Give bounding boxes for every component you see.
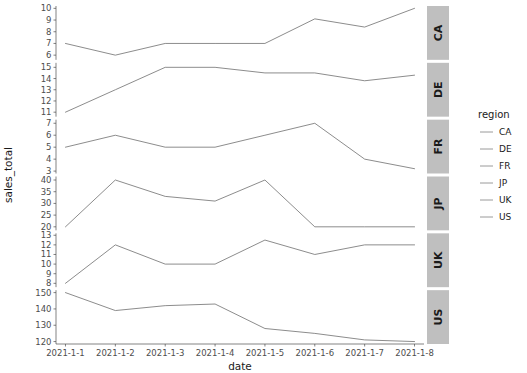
facet-strip-label-de: DE (432, 81, 445, 98)
y-tick-label: 7 (46, 38, 51, 48)
legend-item-uk[interactable]: UK (480, 195, 513, 205)
legend-label-ca: CA (499, 127, 512, 137)
y-tick-label: 13 (41, 230, 52, 240)
y-tick-label: 6 (46, 130, 51, 140)
y-tick-label: 8 (46, 27, 51, 37)
y-tick-label: 9 (46, 269, 51, 279)
y-tick-label: 40 (41, 175, 52, 185)
legend-label-fr: FR (499, 161, 510, 171)
facet-strip-label-fr: FR (432, 138, 445, 155)
x-tick-label: 2021-1-2 (96, 348, 135, 358)
y-tick-label: 5 (46, 142, 51, 152)
legend-item-us[interactable]: US (480, 212, 512, 222)
facet-panel-ca: 678910 (41, 3, 449, 60)
x-tick-label: 2021-1-3 (146, 348, 185, 358)
panel-background-ca (56, 6, 424, 60)
y-axis-title: sales_total (2, 147, 15, 203)
chart-canvas: 678910CA1112131415DE34567FR2025303540JP8… (0, 0, 527, 373)
x-tick-label: 2021-1-7 (345, 348, 384, 358)
y-tick-label: 12 (41, 96, 52, 106)
legend-item-ca[interactable]: CA (480, 127, 512, 137)
x-tick-label: 2021-1-1 (46, 348, 85, 358)
x-tick-label: 2021-1-6 (295, 348, 334, 358)
y-tick-label: 120 (35, 337, 51, 347)
x-tick-label: 2021-1-5 (246, 348, 285, 358)
legend-title: region (478, 109, 510, 120)
y-tick-label: 140 (35, 304, 51, 314)
y-tick-label: 130 (35, 320, 51, 330)
facet-strip-label-uk: UK (432, 251, 445, 269)
legend-label-de: DE (499, 144, 512, 154)
y-tick-label: 15 (41, 62, 52, 72)
facet-panel-jp: 2025303540 (41, 175, 449, 232)
facet-strip-label-jp: JP (432, 197, 445, 210)
y-tick-label: 7 (46, 118, 51, 128)
legend-label-uk: UK (499, 195, 513, 205)
facet-line-chart: 678910CA1112131415DE34567FR2025303540JP8… (0, 0, 527, 373)
y-tick-label: 150 (35, 288, 51, 298)
panel-background-fr (56, 120, 424, 174)
panel-background-us (56, 290, 424, 344)
legend-item-fr[interactable]: FR (480, 161, 510, 171)
facet-strip-label-ca: CA (432, 24, 445, 41)
y-tick-label: 35 (41, 187, 52, 197)
y-tick-label: 11 (41, 249, 52, 259)
legend-label-us: US (499, 212, 512, 222)
panel-background-jp (56, 177, 424, 231)
panel-background-uk (56, 233, 424, 287)
y-tick-label: 6 (46, 50, 51, 60)
facet-strip-label-us: US (432, 309, 445, 326)
facet-panel-de: 1112131415 (41, 62, 449, 117)
y-tick-label: 13 (41, 85, 52, 95)
x-tick-label: 2021-1-8 (395, 348, 434, 358)
facet-panel-fr: 34567 (46, 118, 449, 176)
y-tick-label: 12 (41, 240, 52, 250)
facet-panel-us: 1201301401502021-1-12021-1-22021-1-32021… (35, 288, 449, 358)
legend-item-de[interactable]: DE (480, 144, 512, 154)
legend-item-jp[interactable]: JP (480, 178, 508, 188)
y-tick-label: 30 (41, 198, 52, 208)
y-tick-label: 4 (46, 154, 51, 164)
facet-panel-uk: 8910111213 (41, 230, 449, 288)
y-tick-label: 10 (41, 259, 52, 269)
panel-background-de (56, 63, 424, 117)
y-tick-label: 10 (41, 3, 52, 13)
legend-label-jp: JP (498, 178, 508, 188)
y-tick-label: 9 (46, 15, 51, 25)
y-tick-label: 14 (41, 74, 52, 84)
y-tick-label: 25 (41, 210, 52, 220)
x-axis-title: date (228, 360, 252, 372)
x-tick-label: 2021-1-4 (196, 348, 235, 358)
y-tick-label: 11 (41, 107, 52, 117)
